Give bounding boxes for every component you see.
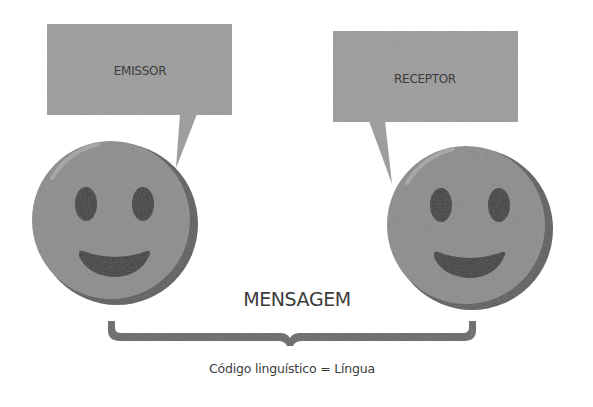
receiver-smiley-face-icon — [387, 146, 553, 310]
left-eye — [75, 187, 97, 221]
sender-bubble-tail — [176, 114, 197, 168]
left-eye — [430, 188, 452, 222]
right-eye — [132, 187, 154, 221]
face — [387, 146, 545, 304]
code-label: Código linguístico = Língua — [209, 361, 375, 376]
communication-diagram: EMISSOR RECEPTOR MENSAGEM Código linguís… — [0, 0, 593, 407]
sender-smiley-face-icon — [32, 141, 198, 305]
receiver-bubble-tail — [369, 121, 392, 184]
curly-brace — [108, 321, 476, 346]
sender-label: EMISSOR — [114, 64, 166, 78]
message-label: MENSAGEM — [243, 288, 351, 310]
receiver-label: RECEPTOR — [394, 72, 456, 86]
right-eye — [488, 188, 510, 222]
